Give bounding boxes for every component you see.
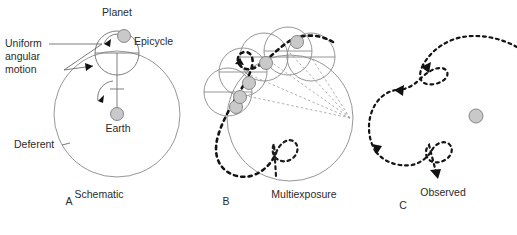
- label-epicycle: Epicycle: [134, 35, 173, 47]
- trajectory-arrowhead-b: [235, 58, 244, 65]
- earth-dot-c: [469, 109, 483, 123]
- caption-panel-a: Schematic: [74, 188, 123, 200]
- panel-c: Observed C: [369, 36, 517, 211]
- planet-dot-b-4: [260, 57, 273, 70]
- label-uniform-line3: motion: [5, 63, 37, 75]
- observed-path-upper: [423, 36, 517, 65]
- observed-arrowhead-lower: [430, 169, 441, 179]
- planet-motion-arrowhead: [104, 39, 111, 47]
- radial-line-4: [288, 51, 350, 118]
- uniform-motion-leader-diagonal: [64, 44, 102, 70]
- earth-rotation-arrowhead: [98, 95, 104, 103]
- earth-rotation-arc: [98, 81, 113, 101]
- radial-line-2: [243, 72, 350, 118]
- observed-path-lower: [376, 150, 432, 165]
- deferent-leader: [62, 143, 70, 145]
- label-earth: Earth: [105, 122, 130, 134]
- panel-a: Planet Epicycle Uniform angular motion E…: [5, 6, 180, 207]
- figure-canvas: Planet Epicycle Uniform angular motion E…: [0, 0, 517, 235]
- planet-dot: [118, 30, 131, 43]
- planet-dot-b-5: [291, 36, 304, 49]
- planet-motion-arc: [104, 34, 118, 44]
- letter-panel-a: A: [65, 195, 72, 207]
- label-deferent: Deferent: [14, 138, 54, 150]
- observed-path-left: [369, 90, 396, 152]
- caption-panel-b: Multiexposure: [271, 188, 337, 200]
- caption-panel-c: Observed: [420, 186, 466, 198]
- planet-dot-b-3: [243, 77, 256, 90]
- panel-b: Multiexposure B: [204, 27, 353, 207]
- letter-panel-b: B: [222, 195, 229, 207]
- deferent-circle-b: [227, 55, 353, 181]
- uniform-motion-arrowhead: [85, 63, 93, 71]
- retrograde-loop-b: [273, 140, 298, 176]
- radial-line-5: [311, 57, 350, 118]
- planet-dot-b-2: [234, 91, 247, 104]
- label-uniform-line1: Uniform: [5, 37, 42, 49]
- label-uniform-line2: angular: [5, 50, 41, 62]
- earth-dot: [111, 108, 124, 121]
- letter-panel-c: C: [399, 199, 407, 211]
- label-planet: Planet: [102, 6, 132, 18]
- epicycle-figure: Planet Epicycle Uniform angular motion E…: [0, 0, 517, 235]
